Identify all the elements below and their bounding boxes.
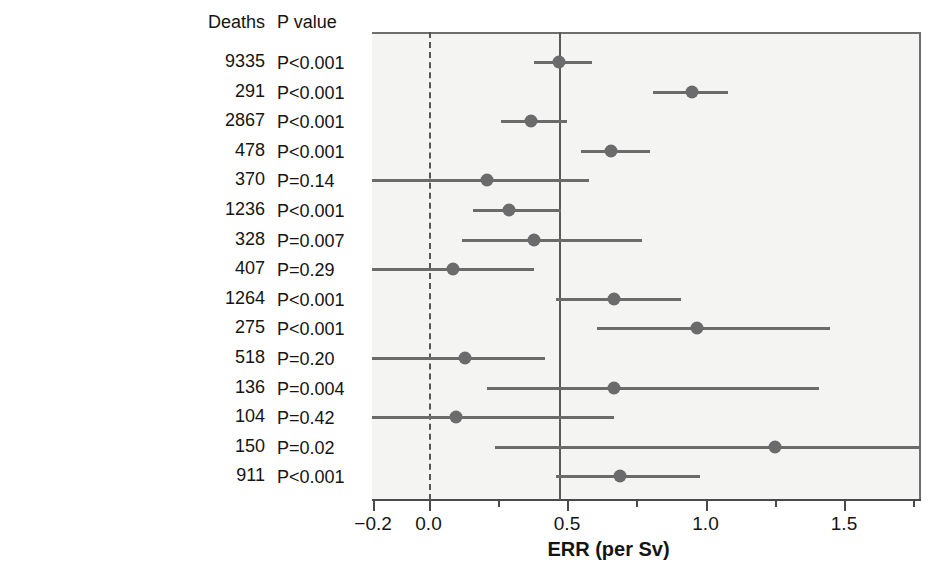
x-tick <box>498 500 500 507</box>
x-axis-label: ERR (per Sv) <box>0 538 934 561</box>
data-point-marker <box>527 233 540 246</box>
data-point-marker <box>480 174 493 187</box>
row-value-deaths: 911 <box>185 465 265 486</box>
data-point-marker <box>605 144 618 157</box>
x-tick <box>706 500 708 511</box>
x-tick <box>567 500 569 511</box>
data-table: Deaths P value All solid cancers9335P<0.… <box>0 0 372 500</box>
data-point-marker <box>450 411 463 424</box>
x-tick <box>844 500 846 511</box>
x-tick <box>373 500 375 511</box>
data-point-marker <box>552 56 565 69</box>
row-value-deaths: 150 <box>185 436 265 457</box>
row-value-deaths: 275 <box>185 317 265 338</box>
row-value-pvalue: P=0.29 <box>277 260 335 281</box>
row-value-pvalue: P<0.001 <box>277 112 345 133</box>
forest-plot-figure: Deaths P value All solid cancers9335P<0.… <box>0 0 934 580</box>
row-value-deaths: 1264 <box>185 288 265 309</box>
row-value-deaths: 2867 <box>185 110 265 131</box>
row-value-pvalue: P<0.001 <box>277 290 345 311</box>
confidence-interval-line <box>487 387 819 390</box>
data-point-marker <box>613 470 626 483</box>
confidence-interval-line <box>495 446 920 449</box>
row-value-pvalue: P=0.20 <box>277 349 335 370</box>
confidence-interval-line <box>473 209 562 212</box>
row-value-deaths: 478 <box>185 140 265 161</box>
row-value-pvalue: P=0.007 <box>277 231 345 252</box>
row-value-deaths: 518 <box>185 347 265 368</box>
data-point-marker <box>502 204 515 217</box>
x-tick-label: −0.2 <box>354 513 392 535</box>
column-header-deaths: Deaths <box>185 12 265 33</box>
data-point-marker <box>768 440 781 453</box>
row-value-deaths: 370 <box>185 169 265 190</box>
x-axis-line <box>372 499 921 501</box>
confidence-interval-line <box>372 416 614 419</box>
row-value-deaths: 9335 <box>185 51 265 72</box>
x-tick <box>775 500 777 507</box>
row-value-pvalue: P<0.001 <box>277 142 345 163</box>
row-value-pvalue: P<0.001 <box>277 467 345 488</box>
x-axis-label-text: ERR (per Sv) <box>547 538 669 560</box>
row-value-pvalue: P<0.001 <box>277 319 345 340</box>
row-value-pvalue: P<0.001 <box>277 83 345 104</box>
row-value-deaths: 407 <box>185 258 265 279</box>
data-point-marker <box>524 115 537 128</box>
column-header-pvalue: P value <box>277 12 337 33</box>
row-value-deaths: 1236 <box>185 199 265 220</box>
row-value-pvalue: P=0.14 <box>277 171 335 192</box>
row-value-deaths: 104 <box>185 406 265 427</box>
x-tick-label: 1.0 <box>692 513 718 535</box>
confidence-interval-line <box>556 475 700 478</box>
pooled-reference-line <box>559 32 561 500</box>
data-point-marker <box>447 263 460 276</box>
confidence-interval-line <box>462 239 642 242</box>
confidence-interval-line <box>597 327 830 330</box>
x-tick <box>429 500 431 511</box>
data-point-marker <box>458 352 471 365</box>
row-value-deaths: 328 <box>185 229 265 250</box>
row-value-pvalue: P=0.004 <box>277 379 345 400</box>
row-value-pvalue: P=0.02 <box>277 438 335 459</box>
plot-frame-right <box>919 32 921 500</box>
zero-reference-line <box>429 32 431 500</box>
row-value-pvalue: P<0.001 <box>277 201 345 222</box>
data-point-marker <box>685 85 698 98</box>
row-value-pvalue: P=0.42 <box>277 408 335 429</box>
data-point-marker <box>691 322 704 335</box>
x-tick <box>636 500 638 507</box>
x-tick-label: 0.5 <box>554 513 580 535</box>
x-tick-label: 1.5 <box>831 513 857 535</box>
row-value-pvalue: P<0.001 <box>277 53 345 74</box>
row-value-deaths: 291 <box>185 81 265 102</box>
row-value-deaths: 136 <box>185 377 265 398</box>
data-point-marker <box>608 381 621 394</box>
data-point-marker <box>608 292 621 305</box>
x-tick <box>913 500 915 507</box>
x-tick-label: 0.0 <box>415 513 441 535</box>
plot-frame-top <box>372 32 921 34</box>
